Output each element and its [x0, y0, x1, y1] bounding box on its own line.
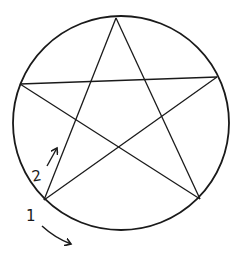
pentagram-diagram: 1 2 — [0, 0, 239, 256]
arrow-step-1-icon — [42, 226, 71, 244]
arrow-step-2-icon — [47, 148, 57, 166]
step-1-label: 1 — [26, 209, 36, 224]
pentagram-drawing — [0, 0, 239, 256]
star-line-left-to-right — [20, 77, 217, 84]
star-line-right-to-bottom-left — [44, 77, 217, 200]
star-line-top-to-bottom-left — [44, 18, 116, 200]
